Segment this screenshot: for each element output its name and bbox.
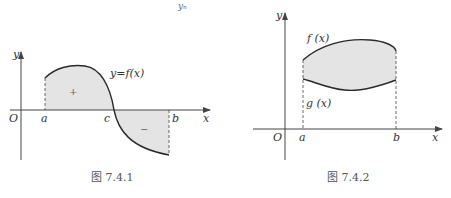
figure-7-4-2: y x O a b f (x) g (x) 图 7.4.2 xyxy=(253,9,442,184)
x-axis-label: x xyxy=(203,112,210,125)
a-label: a xyxy=(41,112,48,125)
figure-caption: 图 7.4.2 xyxy=(327,171,370,184)
b-label: b xyxy=(172,112,179,125)
origin-label: O xyxy=(273,131,282,144)
figure-7-4-1: y x O a c b y=f(x) + − 图 7.4.1 xyxy=(9,48,210,184)
b-label: b xyxy=(393,131,400,144)
origin-label: O xyxy=(9,112,18,125)
upper-curve-label: f (x) xyxy=(306,32,329,45)
negative-sign: − xyxy=(140,124,148,135)
c-label: c xyxy=(104,112,110,125)
figure-caption: 图 7.4.1 xyxy=(91,171,134,184)
header-fragment: yₙ xyxy=(177,1,187,11)
positive-area xyxy=(45,66,114,111)
positive-sign: + xyxy=(69,86,77,97)
a-label: a xyxy=(299,131,306,144)
lower-curve-label: g (x) xyxy=(306,97,331,110)
x-axis-label: x xyxy=(432,131,439,144)
y-axis-label: y xyxy=(12,48,20,61)
curve-label: y=f(x) xyxy=(109,67,144,80)
y-axis-label: y xyxy=(275,9,283,22)
diagram-canvas: yₙ y x O a c b y=f(x) + − 图 7.4.1 xyxy=(0,0,451,198)
